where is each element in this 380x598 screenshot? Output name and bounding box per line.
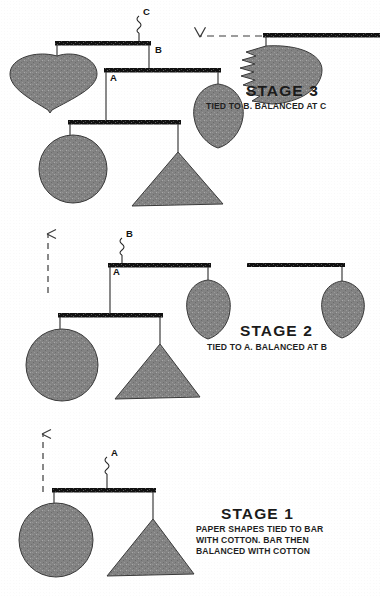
stage-3-title: STAGE 3: [246, 82, 319, 100]
stage-3-caption: TIED TO B. BALANCED AT C: [206, 101, 326, 112]
diagram-canvas: [0, 0, 380, 598]
cotton-thread-a: [105, 457, 109, 490]
knot-label-b-stage2: B: [126, 228, 133, 239]
cotton-thread-b: [120, 238, 124, 264]
leaf-shape-stage2-right: [322, 281, 365, 338]
circle-shape-stage2: [26, 329, 98, 401]
circle-shape-stage1: [19, 503, 93, 577]
stage-1-assembly: [19, 434, 194, 577]
knot-label-c: C: [143, 6, 150, 17]
stage-2-caption: TIED TO A. BALANCED AT B: [207, 342, 327, 353]
knot-label-a-stage1: A: [111, 447, 118, 458]
bar-stage3-top: [55, 41, 151, 46]
bar-stage2-upper: [108, 263, 211, 268]
heart-shape-stage3: [10, 54, 97, 113]
triangle-shape-stage2: [115, 344, 200, 399]
stage-2-assembly: [26, 234, 364, 401]
triangle-shape-stage1: [107, 519, 194, 576]
bar-stage3-lower: [68, 120, 181, 125]
bar-stage3-detached: [263, 33, 380, 38]
circle-shape-stage3: [39, 135, 107, 203]
leaf-shape-stage2-left: [187, 280, 231, 339]
knot-label-b-stage3: B: [155, 44, 162, 55]
leaf-shape-stage3: [194, 84, 244, 148]
triangle-shape-stage3: [132, 152, 223, 206]
mobile-construction-figure: C B A B A A STAGE 3 TIED TO B. BALANCED …: [0, 0, 380, 598]
bar-stage1: [52, 488, 156, 493]
stage-1-title: STAGE 1: [221, 505, 294, 523]
bar-stage3-mid: [104, 68, 221, 73]
stage-2-title: STAGE 2: [240, 322, 313, 340]
stage-1-caption: PAPER SHAPES TIED TO BAR WITH COTTON. BA…: [196, 524, 323, 557]
knot-label-a-stage2: A: [113, 266, 120, 277]
bar-stage2-detached: [247, 263, 345, 267]
bar-stage2-lower: [58, 313, 163, 318]
cotton-thread-c: [137, 16, 141, 42]
knot-label-a-stage3: A: [110, 72, 117, 83]
